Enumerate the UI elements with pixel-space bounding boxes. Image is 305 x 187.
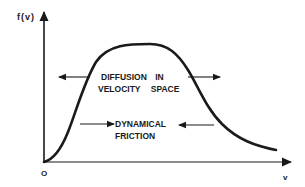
- origin-label: O: [41, 169, 47, 178]
- diffusion-label-line2: VELOCITY SPACE: [98, 84, 180, 94]
- diffusion-label-line1: DIFFUSION IN: [101, 72, 164, 82]
- friction-label-line1: DYNAMICAL: [115, 119, 166, 129]
- diagram-canvas: f(v) O v DIFFUSION IN VELOCITY SPACE DYN…: [0, 0, 305, 187]
- x-axis-label: v: [283, 173, 288, 182]
- distribution-curve: [44, 44, 276, 162]
- y-axis-label: f(v): [17, 12, 35, 22]
- friction-label-line2: FRICTION: [115, 131, 155, 141]
